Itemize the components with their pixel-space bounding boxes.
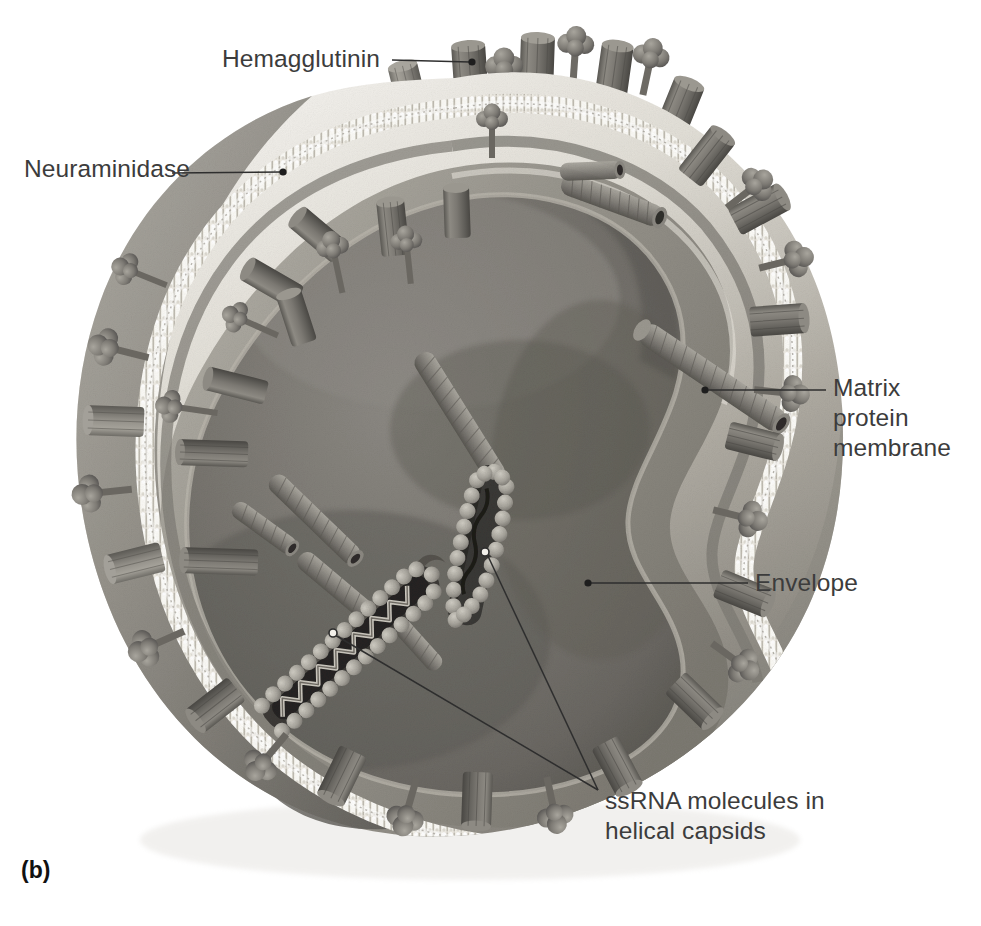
hemagglutinin-spike [461, 772, 493, 833]
hemagglutinin-spike [82, 405, 145, 437]
hemagglutinin-spike [443, 183, 471, 239]
anchor-dot-hemagglutinin [468, 58, 475, 65]
hemagglutinin-spike [179, 547, 259, 576]
label-neuraminidase: Neuraminidase [24, 154, 190, 184]
neuraminidase-spike [625, 34, 673, 98]
panel-letter: (b) [21, 857, 50, 884]
anchor-dot-envelope [584, 579, 591, 586]
label-hemagglutinin: Hemagglutinin [222, 44, 380, 74]
helical-capsid-tube [560, 161, 626, 181]
label-envelope: Envelope [755, 568, 858, 598]
anchor-dot-matrix [701, 386, 708, 393]
figure-panel: Hemagglutinin Neuraminidase Matrix prote… [0, 0, 981, 926]
hemagglutinin-spike [175, 439, 249, 468]
anchor-dot-neuraminidase [279, 168, 286, 175]
hemagglutinin-spike [749, 303, 810, 337]
influenza-virion-illustration [0, 0, 981, 926]
anchor-dot-ssrna-b [329, 629, 337, 637]
label-ssrna-helical-capsids: ssRNA molecules in helical capsids [605, 786, 825, 846]
label-matrix-protein-membrane: Matrix protein membrane [833, 373, 981, 463]
anchor-dot-ssrna-a [481, 548, 489, 556]
